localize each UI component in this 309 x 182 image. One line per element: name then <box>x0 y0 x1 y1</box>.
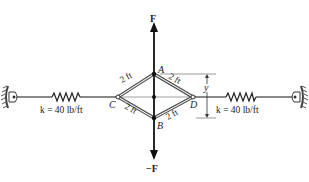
right-spring-label: k = 40 lb/ft <box>216 105 259 115</box>
pin-b <box>152 116 156 120</box>
right-wall-support-icon <box>292 86 308 108</box>
force-neg-f-label: −F <box>146 163 158 174</box>
force-f-label: F <box>150 13 156 24</box>
member-ac-length: 2 ft <box>118 70 134 85</box>
member-bd-length: 2 ft <box>164 107 180 122</box>
left-spring-label: k = 40 lb/ft <box>40 105 83 115</box>
force-down-arrow-icon <box>150 150 158 160</box>
pin-c <box>116 95 120 99</box>
dimension-y-label: y <box>203 82 209 93</box>
vertical-axis <box>150 22 158 160</box>
diagram-canvas: F −F A B C D 2 ft 2 ft 2 ft 2 ft y k = 4… <box>0 0 309 182</box>
point-a-label: A <box>157 64 165 75</box>
point-c-label: C <box>109 99 116 110</box>
center-point <box>152 95 156 99</box>
member-cb-length: 2 ft <box>123 101 139 116</box>
left-spring <box>52 93 80 101</box>
point-d-label: D <box>189 99 198 110</box>
right-spring <box>226 93 256 101</box>
pin-a <box>152 72 156 76</box>
left-wall-support-icon <box>1 86 17 108</box>
point-b-label: B <box>157 120 163 131</box>
